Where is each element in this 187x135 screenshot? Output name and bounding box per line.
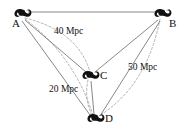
- distance-label-c-d: 20 Mpc: [49, 85, 78, 95]
- galaxy-node-a-icon: [15, 9, 32, 17]
- distance-label-b-d: 50 Mpc: [128, 63, 157, 73]
- galaxy-node-b-icon: [155, 9, 172, 17]
- distance-label-a-c: 40 Mpc: [54, 27, 83, 37]
- node-label-a: A: [12, 18, 20, 29]
- galaxy-node-c-icon: [83, 71, 100, 79]
- node-label-c: C: [100, 70, 107, 81]
- node-label-b: B: [169, 18, 176, 29]
- diagram-canvas: [0, 0, 187, 135]
- galaxy-node-d-icon: [88, 114, 105, 122]
- solid-edge-c-d: [91, 81, 94, 114]
- galaxy-separation-diagram: A B C D 40 Mpc 50 Mpc 20 Mpc: [0, 0, 187, 135]
- node-label-d: D: [105, 113, 113, 124]
